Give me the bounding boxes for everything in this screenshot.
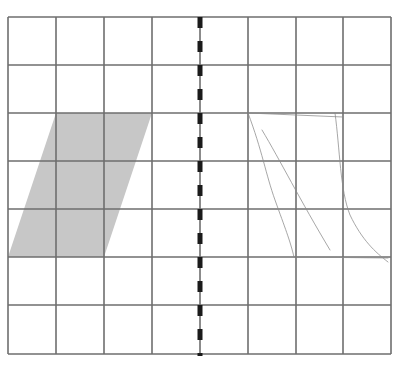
shaded-parallelogram: [8, 113, 152, 257]
grid-figure: [0, 0, 402, 367]
sketch-stroke: [248, 113, 294, 257]
reflected-sketch: [248, 113, 388, 262]
parallelogram-fill: [8, 113, 152, 257]
